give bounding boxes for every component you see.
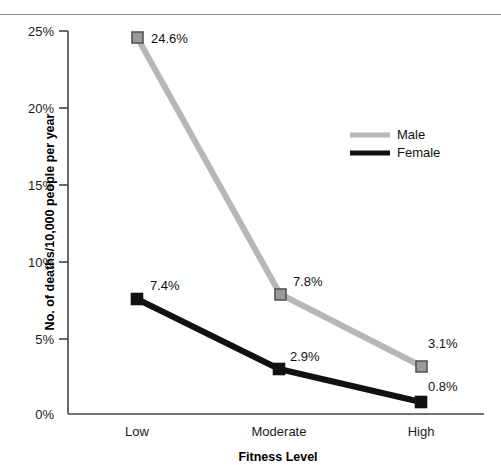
- data-point-male-moderate: [275, 289, 286, 300]
- series-line-male: [137, 37, 421, 366]
- chart-figure: 25% 20% 15% 10% 5% 0% Low Moderate High …: [0, 0, 501, 471]
- data-point-male-low: [132, 32, 143, 43]
- y-tick-label-25: 25%: [6, 24, 54, 39]
- data-label-female-high: 0.8%: [428, 379, 458, 394]
- x-tick-label-high: High: [381, 424, 461, 439]
- data-point-female-high: [416, 397, 427, 408]
- data-label-male-moderate: 7.8%: [293, 274, 323, 289]
- data-label-male-high: 3.1%: [428, 336, 458, 351]
- x-tick-label-moderate: Moderate: [239, 424, 319, 439]
- x-tick-label-low: Low: [97, 424, 177, 439]
- data-point-female-low: [132, 294, 143, 305]
- legend-label-male: Male: [397, 127, 425, 142]
- legend-label-female: Female: [397, 145, 440, 160]
- x-axis-title: Fitness Level: [68, 450, 488, 464]
- series-line-female: [137, 299, 421, 402]
- y-axis-title: No. of deaths/10,000 people per year: [43, 92, 57, 352]
- data-point-male-high: [416, 361, 427, 372]
- y-tick-label-0: 0%: [6, 407, 54, 422]
- data-point-female-moderate: [274, 364, 285, 375]
- data-label-female-low: 7.4%: [150, 278, 180, 293]
- line-chart-plot: [0, 0, 501, 471]
- data-label-female-moderate: 2.9%: [290, 349, 320, 364]
- data-label-male-low: 24.6%: [151, 31, 188, 46]
